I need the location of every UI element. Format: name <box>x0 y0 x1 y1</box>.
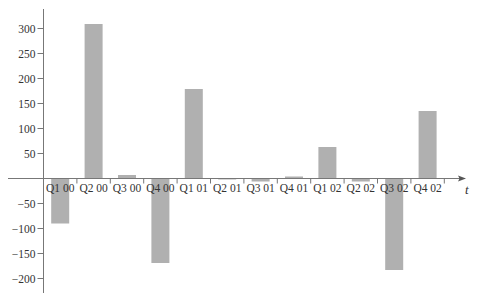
y-ticks-group: −200−150−100−5050100150200250300 <box>12 23 44 285</box>
bar-q4-02 <box>419 111 437 179</box>
x-tick-label: Q1 02 <box>313 182 342 194</box>
y-tick-label: −100 <box>12 223 36 235</box>
y-tick-label: −150 <box>12 248 36 260</box>
y-tick-label: 250 <box>18 48 36 60</box>
x-axis-label: t <box>465 182 469 197</box>
y-tick-label: 50 <box>24 148 36 160</box>
bar-q3-00 <box>118 175 136 179</box>
x-ticks-group: Q1 00Q2 00Q3 00Q4 00Q1 01Q2 01Q3 01Q4 01… <box>46 179 444 194</box>
bar-q1-02 <box>318 147 336 179</box>
y-tick-label: 200 <box>18 73 36 85</box>
x-tick-label: Q1 01 <box>180 182 209 194</box>
bar-chart: t −200−150−100−5050100150200250300 Q1 00… <box>0 0 480 304</box>
y-tick-label: 150 <box>18 98 36 110</box>
x-tick-label: Q3 01 <box>246 182 275 194</box>
x-tick-label: Q3 02 <box>380 182 409 194</box>
x-tick-label: Q4 02 <box>413 182 442 194</box>
x-tick-label: Q2 02 <box>347 182 376 194</box>
bar-q1-01 <box>185 89 203 179</box>
y-tick-label: −50 <box>18 198 36 210</box>
y-tick-label: 100 <box>18 123 36 135</box>
x-tick-label: Q4 01 <box>280 182 309 194</box>
y-tick-label: −200 <box>12 273 36 285</box>
x-tick-label: Q3 00 <box>113 182 142 194</box>
x-tick-label: Q2 00 <box>79 182 108 194</box>
x-tick-label: Q4 00 <box>146 182 175 194</box>
bar-q2-00 <box>85 24 103 179</box>
bars-group <box>51 24 436 270</box>
y-tick-label: 300 <box>18 23 36 35</box>
x-tick-label: Q1 00 <box>46 182 75 194</box>
x-tick-label: Q2 01 <box>213 182 242 194</box>
